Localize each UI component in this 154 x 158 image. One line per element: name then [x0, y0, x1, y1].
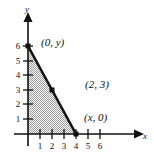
annotation-bottom-point: (x, 0) [84, 112, 107, 123]
y-tick-label-3: 3 [14, 86, 22, 95]
point-marker-4-0 [74, 132, 79, 137]
plot-graphic [0, 0, 154, 158]
x-tick-label-4: 4 [72, 142, 80, 151]
x-tick-label-1: 1 [36, 142, 44, 151]
x-tick-label-2: 2 [48, 142, 56, 151]
x-tick-label-5: 5 [84, 142, 92, 151]
y-tick-label-2: 2 [14, 100, 22, 109]
x-axis-label: x [143, 132, 147, 141]
x-tick-label-3: 3 [60, 142, 68, 151]
y-tick-label-5: 5 [14, 57, 22, 66]
coordinate-plane-figure: 1 2 3 4 5 6 1 2 3 4 5 6 (0, y) (2, 3) (x… [0, 0, 154, 158]
y-axis-label: y [25, 5, 29, 14]
point-marker-0-6 [26, 44, 31, 49]
annotation-mid-point: (2, 3) [85, 79, 109, 90]
annotation-top-point: (0, y) [41, 37, 64, 48]
y-tick-label-6: 6 [14, 42, 22, 51]
x-tick-label-6: 6 [96, 142, 104, 151]
y-tick-label-4: 4 [14, 71, 22, 80]
point-marker-2-3 [50, 88, 55, 93]
y-tick-label-1: 1 [14, 115, 22, 124]
